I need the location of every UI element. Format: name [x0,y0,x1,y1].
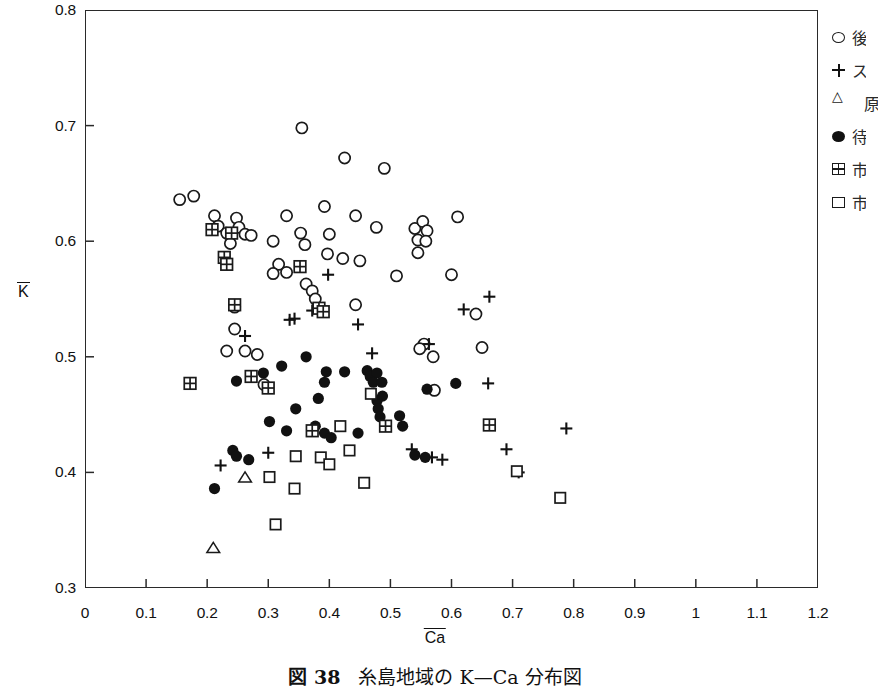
y-tick-label: 0.8 [28,1,76,19]
legend-item-label: 後 [852,25,866,49]
y-tick-label: 0.3 [28,579,76,597]
y-axis-title-text: K [18,282,29,301]
x-tick-label: 0.3 [258,604,279,622]
x-tick-label: 0.9 [624,604,645,622]
x-tick-label: 0.2 [197,604,218,622]
x-tick-label: 0.5 [380,604,401,622]
legend-item-open-triangle[interactable]: 原 [832,90,878,116]
figure-number: 図 38 [288,666,340,688]
x-tick-label: 0 [81,604,89,622]
x-axis-title: Ca [425,628,445,647]
y-tick-label: 0.7 [28,117,76,135]
legend-item-label: 待 [852,124,866,148]
x-tick-label: 1.1 [746,604,767,622]
plus-icon [832,64,845,77]
hatched-square-icon [832,163,845,175]
x-tick-label: 0.1 [136,604,157,622]
x-tick-label: 0.4 [319,604,340,622]
legend-item-label: ス [852,58,866,82]
x-tick-label: 0.8 [563,604,584,622]
x-tick-label: 0.6 [441,604,462,622]
figure-caption: 図 38糸島地域の K—Ca 分布図 [0,662,870,689]
legend-item-hatched-square[interactable]: 市 [832,156,866,182]
open-triangle-icon [832,98,857,108]
figure-caption-text: 糸島地域の K—Ca 分布図 [358,666,581,688]
plot-frame [85,10,818,588]
y-tick-label: 0.6 [28,232,76,250]
legend: 後ス原待市市 [832,24,870,236]
legend-item-plus[interactable]: ス [832,57,866,83]
legend-item-label: 市 [852,190,866,214]
y-tick-label: 0.5 [28,348,76,366]
x-axis-title-text: Ca [425,628,445,647]
legend-item-filled-circle[interactable]: 待 [832,123,866,149]
legend-item-open-circle[interactable]: 後 [832,24,866,50]
filled-circle-icon [832,131,845,142]
x-tick-label: 1 [692,604,700,622]
x-tick-label: 0.7 [502,604,523,622]
open-circle-icon [832,32,845,43]
y-tick-label: 0.4 [28,463,76,481]
y-axis-title: K [18,282,29,301]
legend-item-label: 市 [852,157,866,181]
legend-item-label: 原 [864,91,878,115]
x-tick-label: 1.2 [808,604,829,622]
legend-item-open-square[interactable]: 市 [832,189,866,215]
open-square-icon [832,197,845,208]
